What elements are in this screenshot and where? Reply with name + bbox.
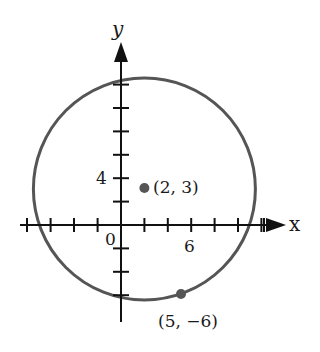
- x-tick-label-6: 6: [184, 236, 195, 256]
- x-axis-label: x: [289, 212, 301, 236]
- y-axis: [113, 42, 129, 322]
- y-axis-label: y: [111, 17, 124, 41]
- coordinate-plane: y x 0 6 4 (2, 3) (5, −6): [0, 0, 320, 352]
- center-point: [139, 183, 149, 193]
- y-axis-arrow-icon: [114, 42, 128, 62]
- circle-point-label: (5, −6): [158, 311, 218, 331]
- center-point-label: (2, 3): [153, 177, 199, 197]
- origin-label: 0: [105, 229, 116, 249]
- y-tick-label-4: 4: [96, 168, 107, 188]
- x-axis-arrow-icon: [266, 218, 286, 232]
- circle-point: [176, 289, 186, 299]
